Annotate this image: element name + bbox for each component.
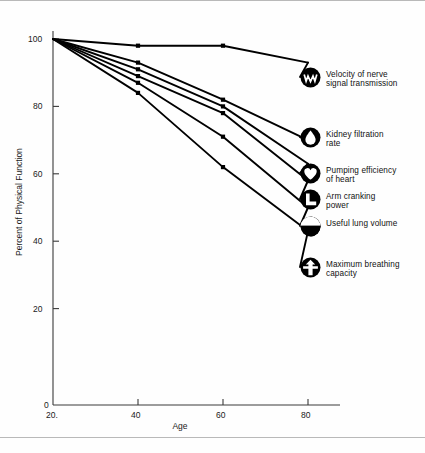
kidney-droplet-icon bbox=[300, 127, 321, 148]
legend-item[interactable]: Kidney filtration rate bbox=[300, 127, 384, 149]
legend-item[interactable]: Arm cranking power bbox=[300, 189, 375, 211]
legend-label: Arm cranking power bbox=[326, 189, 375, 211]
legend-label: Useful lung volume bbox=[326, 216, 397, 229]
y-tick-label: 40 bbox=[33, 236, 42, 246]
x-tick-label: 20. bbox=[46, 410, 58, 420]
x-tick-label: 40 bbox=[131, 410, 140, 420]
legend-item[interactable]: Useful lung volume bbox=[300, 216, 397, 237]
x-tick-label: 60 bbox=[216, 410, 225, 420]
y-tick-label: 100 bbox=[28, 34, 42, 44]
breathing-capacity-icon bbox=[300, 257, 321, 278]
y-axis-label: Percent of Physical Function bbox=[14, 127, 24, 277]
y-tick-label: 0 bbox=[44, 400, 49, 410]
legend-item[interactable]: Pumping efficiency of heart bbox=[300, 163, 396, 185]
legend-item[interactable]: Maximum breathing capacity bbox=[300, 257, 400, 279]
legend-label: Kidney filtration rate bbox=[326, 127, 384, 149]
heart-icon bbox=[300, 163, 321, 184]
x-tick-label: 80 bbox=[301, 410, 310, 420]
y-tick-label: 60 bbox=[33, 169, 42, 179]
lung-volume-icon bbox=[300, 216, 321, 237]
legend-item[interactable]: Velocity of nerve signal transmission bbox=[300, 67, 398, 89]
y-tick-label: 20 bbox=[33, 304, 42, 314]
series-markers-group bbox=[136, 44, 225, 170]
legend-label: Maximum breathing capacity bbox=[326, 257, 400, 279]
nerve-waveform-icon bbox=[300, 67, 321, 88]
legend-label: Velocity of nerve signal transmission bbox=[326, 67, 398, 89]
bottom-rule bbox=[0, 437, 425, 438]
legend-label: Pumping efficiency of heart bbox=[326, 163, 396, 185]
series-lines-group bbox=[53, 39, 308, 231]
chart-frame: Percent of Physical Function Age 0204060… bbox=[0, 0, 425, 453]
y-tick-label: 80 bbox=[33, 101, 42, 111]
y-axis-ticks bbox=[53, 39, 59, 309]
x-axis-ticks bbox=[138, 399, 308, 405]
arm-crank-icon bbox=[300, 189, 321, 210]
x-axis-label: Age bbox=[120, 421, 240, 431]
